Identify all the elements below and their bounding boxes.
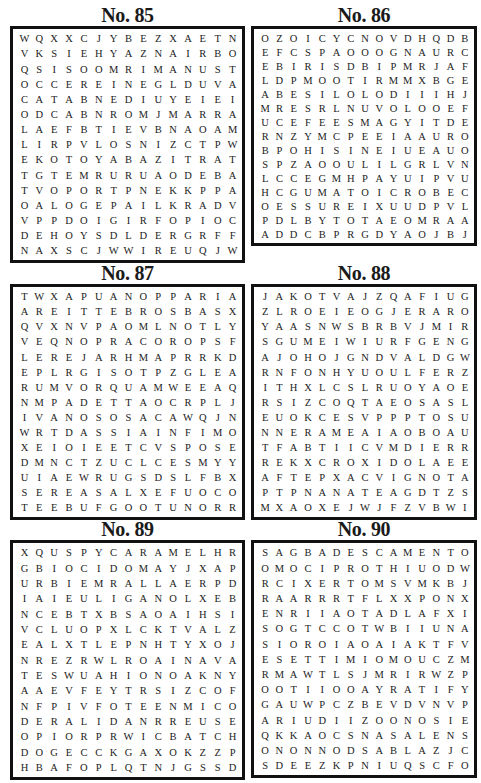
grid-letter: P [195, 183, 210, 198]
grid-letter: A [429, 144, 443, 158]
grid-letter: E [372, 486, 386, 501]
grid-letter: V [62, 380, 77, 395]
letter-grid: XQUSPYCARAMELHRGBIOCIDOMAYJXAPURBIEMRALL… [17, 546, 240, 776]
grid-letter: O [225, 426, 240, 441]
grid-letter: L [372, 592, 386, 607]
grid-letter: S [195, 761, 210, 776]
grid-letter: U [195, 62, 210, 77]
grid-letter: O [287, 411, 301, 426]
grid-letter: M [401, 546, 415, 561]
grid-letter: A [301, 158, 315, 172]
grid-letter: A [429, 456, 443, 471]
grid-letter: N [181, 501, 196, 516]
grid-letter: E [91, 198, 106, 213]
grid-letter: A [195, 305, 210, 320]
grid-letter: A [258, 713, 272, 728]
grid-letter: I [344, 441, 358, 456]
grid-letter: U [458, 426, 472, 441]
grid-letter: A [151, 653, 166, 668]
grid-letter: X [358, 456, 372, 471]
grid-letter: E [358, 130, 372, 144]
grid-letter: D [136, 229, 151, 244]
grid-letter: O [195, 486, 210, 501]
grid-letter: O [315, 74, 329, 88]
grid-letter: O [17, 108, 32, 123]
grid-letter: M [329, 426, 343, 441]
grid-letter: O [62, 198, 77, 213]
grid-letter: P [210, 138, 225, 153]
grid-letter: Y [415, 380, 429, 395]
grid-letter: M [151, 380, 166, 395]
grid-letter: P [76, 290, 91, 305]
grid-letter: U [315, 200, 329, 214]
grid-letter: O [195, 123, 210, 138]
grid-letter: O [121, 365, 136, 380]
grid-letter: D [386, 456, 400, 471]
grid-letter: Z [315, 759, 329, 774]
grid-letter: R [91, 183, 106, 198]
grid-letter: N [121, 290, 136, 305]
grid-letter: Y [106, 684, 121, 699]
grid-letter: O [415, 186, 429, 200]
grid-letter: Z [401, 501, 415, 516]
grid-letter: B [315, 228, 329, 242]
grid-letter: H [121, 350, 136, 365]
grid-letter: S [210, 441, 225, 456]
grid-letter: R [258, 592, 272, 607]
grid-letter: T [429, 486, 443, 501]
grid-letter: R [181, 395, 196, 410]
grid-letter: P [258, 214, 272, 228]
grid-letter: P [458, 698, 472, 713]
grid-letter: T [121, 441, 136, 456]
grid-letter: O [329, 744, 343, 759]
grid-letter: U [76, 669, 91, 684]
grid-letter: F [415, 290, 429, 305]
grid-letter: M [47, 380, 62, 395]
grid-letter: A [458, 214, 472, 228]
grid-letter: O [106, 699, 121, 714]
grid-letter: X [301, 380, 315, 395]
grid-letter: H [301, 144, 315, 158]
grid-letter: R [344, 228, 358, 242]
grid-letter: I [301, 32, 315, 46]
grid-letter: R [386, 668, 400, 683]
grid-letter: R [287, 305, 301, 320]
grid-letter: I [301, 607, 315, 622]
puzzle-title: No. 86 [251, 4, 477, 27]
grid-letter: A [315, 426, 329, 441]
grid-letter: A [287, 592, 301, 607]
grid-letter: A [136, 426, 151, 441]
grid-letter: D [17, 229, 32, 244]
grid-letter: S [91, 411, 106, 426]
grid-letter: A [76, 426, 91, 441]
grid-letter: N [121, 77, 136, 92]
grid-letter: A [62, 290, 77, 305]
grid-letter: S [358, 546, 372, 561]
grid-letter: P [372, 411, 386, 426]
grid-letter: Z [166, 365, 181, 380]
grid-letter: W [181, 411, 196, 426]
grid-letter: O [329, 683, 343, 698]
grid-letter: D [272, 228, 286, 242]
grid-letter: O [344, 456, 358, 471]
grid-letter: V [443, 200, 457, 214]
grid-letter: I [301, 683, 315, 698]
grid-letter: T [225, 62, 240, 77]
grid-letter: I [166, 684, 181, 699]
grid-letter: T [17, 501, 32, 516]
letter-grid-frame: SAGBADESCAMENTOOMOCIPROTHIUODWRCIXERTOMS… [251, 540, 477, 778]
grid-letter: R [121, 62, 136, 77]
grid-letter: T [17, 183, 32, 198]
grid-letter: O [76, 62, 91, 77]
grid-letter: C [358, 471, 372, 486]
grid-letter: L [47, 638, 62, 653]
grid-letter: O [287, 744, 301, 759]
grid-letter: N [166, 699, 181, 714]
grid-letter: Y [315, 214, 329, 228]
grid-letter: T [315, 441, 329, 456]
grid-letter: E [195, 168, 210, 183]
grid-letter: A [386, 486, 400, 501]
grid-letter: O [91, 62, 106, 77]
grid-letter: O [358, 46, 372, 60]
grid-letter: D [401, 441, 415, 456]
